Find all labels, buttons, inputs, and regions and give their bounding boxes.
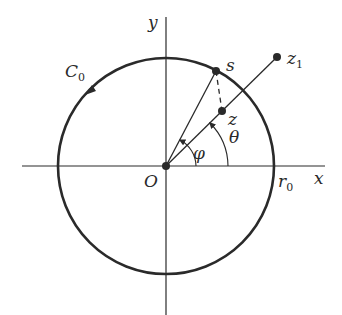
diagram-canvas: y x O C0 r0 s z z1 φ θ: [0, 0, 342, 315]
label-c0: C0: [65, 61, 85, 84]
label-z1: z1: [286, 48, 303, 71]
label-z: z: [227, 109, 238, 129]
label-r0: r0: [278, 171, 293, 194]
dashed-s-z: [216, 71, 222, 111]
label-theta: θ: [229, 127, 239, 147]
point-z1: [273, 53, 281, 61]
label-s: s: [226, 55, 235, 75]
point-s: [212, 67, 220, 75]
point-z: [218, 107, 226, 115]
arc-theta: [210, 123, 228, 166]
label-origin: O: [144, 171, 158, 191]
segment-o-s: [166, 71, 216, 166]
label-y-axis: y: [147, 12, 158, 32]
point-origin: [162, 162, 170, 170]
label-x-axis: x: [314, 168, 324, 188]
label-phi: φ: [193, 143, 205, 163]
